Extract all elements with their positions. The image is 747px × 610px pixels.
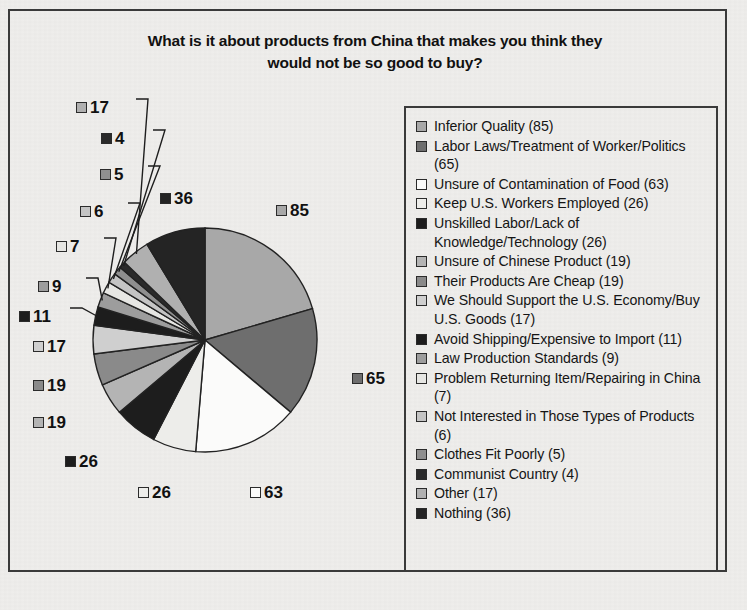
pie-label-swatch-icon xyxy=(160,193,171,204)
legend-item[interactable]: Avoid Shipping/Expensive to Import (11) xyxy=(414,330,710,349)
legend-swatch-icon xyxy=(416,449,427,460)
legend-item-label: Unsure of Chinese Product (19) xyxy=(434,252,631,271)
pie-chart-plot-area: 856563262619191711976541736 xyxy=(8,98,408,578)
legend-item-label: Their Products Are Cheap (19) xyxy=(434,272,624,291)
legend-item-label: Labor Laws/Treatment of Worker/Politics … xyxy=(434,137,710,174)
pie-label-swatch-icon xyxy=(33,380,44,391)
legend-swatch-icon xyxy=(416,469,427,480)
pie-value-text: 6 xyxy=(94,203,103,220)
legend-box: Inferior Quality (85)Labor Laws/Treatmen… xyxy=(404,106,718,572)
title-line-1: What is it about products from China tha… xyxy=(70,30,680,52)
legend-item[interactable]: We Should Support the U.S. Economy/Buy U… xyxy=(414,291,710,328)
legend-swatch-icon xyxy=(416,334,427,345)
pie-value-text: 7 xyxy=(70,238,79,255)
legend-item-label: Law Production Standards (9) xyxy=(434,349,619,368)
legend-item[interactable]: Unskilled Labor/Lack of Knowledge/Techno… xyxy=(414,214,710,251)
legend-swatch-icon xyxy=(416,121,427,132)
pie-label-swatch-icon xyxy=(65,456,76,467)
legend-item-label: Other (17) xyxy=(434,484,498,503)
pie-value-text: 19 xyxy=(47,414,66,431)
pie-label-swatch-icon xyxy=(33,417,44,428)
legend-item[interactable]: Clothes Fit Poorly (5) xyxy=(414,445,710,464)
pie-value-text: 4 xyxy=(115,130,124,147)
pie-value-text: 85 xyxy=(290,202,309,219)
legend-item[interactable]: Inferior Quality (85) xyxy=(414,117,710,136)
legend-item-label: Clothes Fit Poorly (5) xyxy=(434,445,565,464)
pie-value-label: 26 xyxy=(138,484,171,501)
legend-item[interactable]: Their Products Are Cheap (19) xyxy=(414,272,710,291)
pie-value-label: 63 xyxy=(250,484,283,501)
legend-swatch-icon xyxy=(416,276,427,287)
pie-value-text: 17 xyxy=(47,338,66,355)
legend-swatch-icon xyxy=(416,198,427,209)
legend-item-label: Keep U.S. Workers Employed (26) xyxy=(434,194,648,213)
legend-item-label: We Should Support the U.S. Economy/Buy U… xyxy=(434,291,710,328)
legend-swatch-icon xyxy=(416,179,427,190)
legend-item-label: Nothing (36) xyxy=(434,504,511,523)
legend-item[interactable]: Communist Country (4) xyxy=(414,465,710,484)
pie-label-swatch-icon xyxy=(352,373,363,384)
legend-swatch-icon xyxy=(416,411,427,422)
legend-item[interactable]: Nothing (36) xyxy=(414,504,710,523)
legend-item-label: Not Interested in Those Types of Product… xyxy=(434,407,710,444)
pie-value-label: 26 xyxy=(65,453,98,470)
legend-item-label: Unskilled Labor/Lack of Knowledge/Techno… xyxy=(434,214,710,251)
pie-label-swatch-icon xyxy=(276,205,287,216)
pie-value-text: 26 xyxy=(152,484,171,501)
pie-label-swatch-icon xyxy=(250,487,261,498)
legend-item-label: Inferior Quality (85) xyxy=(434,117,553,136)
pie-value-label: 36 xyxy=(160,190,193,207)
legend-swatch-icon xyxy=(416,141,427,152)
pie-label-swatch-icon xyxy=(100,169,111,180)
pie-label-swatch-icon xyxy=(19,311,30,322)
pie-label-swatch-icon xyxy=(56,241,67,252)
title-line-2: would not be so good to buy? xyxy=(70,52,680,74)
legend-swatch-icon xyxy=(416,508,427,519)
pie-value-text: 5 xyxy=(114,166,123,183)
pie-value-label: 5 xyxy=(100,166,123,183)
legend-items: Inferior Quality (85)Labor Laws/Treatmen… xyxy=(414,117,710,522)
pie-label-swatch-icon xyxy=(33,341,44,352)
legend-item-label: Communist Country (4) xyxy=(434,465,579,484)
legend-item[interactable]: Unsure of Chinese Product (19) xyxy=(414,252,710,271)
legend-item[interactable]: Other (17) xyxy=(414,484,710,503)
pie-value-label: 19 xyxy=(33,414,66,431)
pie-value-text: 17 xyxy=(90,99,109,116)
pie-value-label: 19 xyxy=(33,377,66,394)
pie-value-text: 26 xyxy=(79,453,98,470)
pie-label-swatch-icon xyxy=(101,133,112,144)
pie-value-label: 17 xyxy=(33,338,66,355)
pie-label-swatch-icon xyxy=(76,102,87,113)
legend-item-label: Avoid Shipping/Expensive to Import (11) xyxy=(434,330,682,349)
pie-value-text: 63 xyxy=(264,484,283,501)
legend-swatch-icon xyxy=(416,295,427,306)
pie-value-text: 19 xyxy=(47,377,66,394)
page-title: What is it about products from China tha… xyxy=(70,30,680,74)
pie-value-label: 9 xyxy=(38,278,61,295)
pie-value-text: 36 xyxy=(174,190,193,207)
legend-item[interactable]: Unsure of Contamination of Food (63) xyxy=(414,175,710,194)
legend-item[interactable]: Law Production Standards (9) xyxy=(414,349,710,368)
legend-item-label: Unsure of Contamination of Food (63) xyxy=(434,175,669,194)
legend-item[interactable]: Keep U.S. Workers Employed (26) xyxy=(414,194,710,213)
legend-swatch-icon xyxy=(416,353,427,364)
pie-value-label: 17 xyxy=(76,99,109,116)
legend-item[interactable]: Labor Laws/Treatment of Worker/Politics … xyxy=(414,137,710,174)
pie-value-label: 6 xyxy=(80,203,103,220)
pie-value-label: 85 xyxy=(276,202,309,219)
legend-item[interactable]: Not Interested in Those Types of Product… xyxy=(414,407,710,444)
pie-label-swatch-icon xyxy=(138,487,149,498)
legend-swatch-icon xyxy=(416,218,427,229)
legend-swatch-icon xyxy=(416,256,427,267)
legend-swatch-icon xyxy=(416,488,427,499)
pie-label-swatch-icon xyxy=(38,281,49,292)
pie-value-text: 9 xyxy=(52,278,61,295)
legend-item[interactable]: Problem Returning Item/Repairing in Chin… xyxy=(414,369,710,406)
pie-label-swatch-icon xyxy=(80,206,91,217)
pie-value-label: 11 xyxy=(19,308,51,325)
pie-chart xyxy=(8,98,408,578)
legend-swatch-icon xyxy=(416,373,427,384)
pie-value-label: 7 xyxy=(56,238,79,255)
pie-value-label: 65 xyxy=(352,370,385,387)
pie-svg xyxy=(8,98,408,578)
